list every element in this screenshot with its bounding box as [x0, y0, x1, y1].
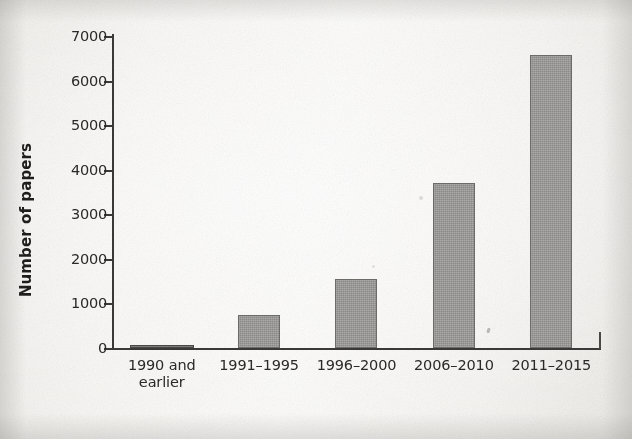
bar-slot — [308, 36, 405, 348]
x-tick-label-line: 1990 and — [113, 357, 210, 374]
bar[interactable] — [335, 279, 377, 348]
x-tick-label: 2011–2015 — [503, 357, 600, 374]
y-tick-label: 2000 — [71, 251, 107, 267]
bar[interactable] — [433, 183, 475, 348]
x-tick-label-line: 2006–2010 — [405, 357, 502, 374]
bar-slot — [210, 36, 307, 348]
bar[interactable] — [530, 55, 572, 348]
y-tick-label: 1000 — [71, 295, 107, 311]
y-tick-label: 3000 — [71, 206, 107, 222]
bar-slot — [113, 36, 210, 348]
x-tick-label: 1990 andearlier — [113, 357, 210, 391]
y-tick-label: 7000 — [71, 28, 107, 44]
y-tick-label: 4000 — [71, 162, 107, 178]
bar-slot — [503, 36, 600, 348]
x-tick-label-line: earlier — [113, 374, 210, 391]
bar-chart-figure: Number of papers 01000200030004000500060… — [0, 0, 632, 439]
x-tick-label-line: 1991–1995 — [210, 357, 307, 374]
plot-area: 01000200030004000500060007000 — [113, 36, 600, 348]
x-tick-label: 1996–2000 — [308, 357, 405, 374]
x-tick-label-line: 1996–2000 — [308, 357, 405, 374]
x-tick-label: 2006–2010 — [405, 357, 502, 374]
y-axis-line — [112, 34, 114, 350]
y-tick-label: 6000 — [71, 73, 107, 89]
y-tick-label: 0 — [98, 340, 107, 356]
bar-slot — [405, 36, 502, 348]
bar[interactable] — [238, 315, 280, 348]
x-axis-end-cap — [599, 332, 601, 349]
x-tick-label-line: 2011–2015 — [503, 357, 600, 374]
scanned-figure-page: Number of papers 01000200030004000500060… — [0, 0, 632, 439]
x-axis-line — [112, 348, 601, 350]
x-tick-label: 1991–1995 — [210, 357, 307, 374]
y-tick-label: 5000 — [71, 117, 107, 133]
y-axis-title: Number of papers — [17, 142, 35, 296]
